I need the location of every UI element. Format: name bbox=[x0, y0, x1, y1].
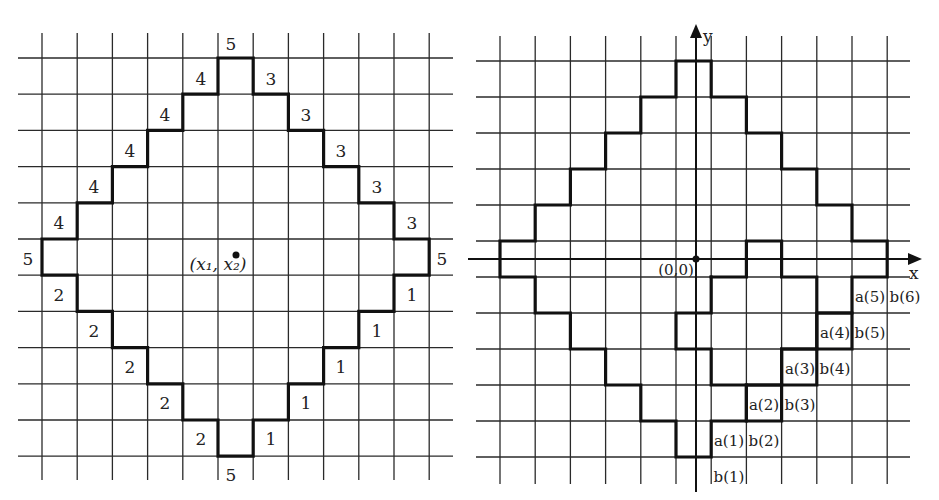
cell-label: b(6) bbox=[890, 288, 921, 306]
x-axis-label: x bbox=[909, 263, 919, 283]
cell-label: a(4) bbox=[820, 324, 850, 342]
edge-count-label: 2 bbox=[160, 393, 171, 413]
edge-count-label: 1 bbox=[336, 357, 347, 377]
edge-count-label: 5 bbox=[226, 34, 237, 54]
edge-count-label: 4 bbox=[89, 177, 100, 197]
edge-count-label: 4 bbox=[196, 69, 207, 89]
edge-count-label: 3 bbox=[266, 69, 277, 89]
cell-label: b(5) bbox=[855, 324, 886, 342]
cell-label: b(3) bbox=[785, 396, 816, 414]
cell-label: a(5) bbox=[855, 288, 885, 306]
edge-count-label: 3 bbox=[301, 105, 312, 125]
left-panel-grid: 544444522222533333511111(x₁, x₂) bbox=[18, 33, 453, 485]
edge-count-label: 3 bbox=[407, 213, 418, 233]
edge-count-label: 2 bbox=[54, 285, 65, 305]
edge-count-label: 5 bbox=[226, 465, 237, 485]
cell-label: b(1) bbox=[714, 468, 745, 486]
edge-count-label: 4 bbox=[54, 213, 65, 233]
cell-label: b(2) bbox=[749, 432, 780, 450]
edge-count-label: 3 bbox=[372, 177, 383, 197]
right-panel-grid: xy(0,0)a(1)b(2)b(1)a(2)b(3)a(3)b(4)a(4)b… bbox=[468, 24, 922, 492]
figure-stage: 544444522222533333511111(x₁, x₂) xy(0,0)… bbox=[0, 0, 939, 500]
lattice-diamond-figure: 544444522222533333511111(x₁, x₂) xy(0,0)… bbox=[0, 0, 939, 500]
edge-count-label: 1 bbox=[266, 429, 277, 449]
edge-count-label: 1 bbox=[407, 285, 418, 305]
edge-count-label: 4 bbox=[160, 105, 171, 125]
edge-count-label: 5 bbox=[437, 249, 448, 269]
y-axis-label: y bbox=[702, 26, 713, 46]
edge-count-label: 2 bbox=[89, 321, 100, 341]
center-point-label: (x₁, x₂) bbox=[190, 254, 247, 274]
edge-count-label: 3 bbox=[336, 141, 347, 161]
edge-count-label: 4 bbox=[125, 141, 136, 161]
origin-label: (0,0) bbox=[658, 261, 694, 279]
edge-count-label: 2 bbox=[125, 357, 136, 377]
y-axis-arrow-icon bbox=[690, 24, 702, 38]
cell-label: a(2) bbox=[749, 396, 779, 414]
cell-label: a(3) bbox=[785, 360, 815, 378]
edge-count-label: 1 bbox=[372, 321, 383, 341]
edge-count-label: 2 bbox=[196, 429, 207, 449]
edge-count-label: 5 bbox=[23, 249, 34, 269]
cell-label: b(4) bbox=[820, 360, 851, 378]
cell-label: a(1) bbox=[714, 432, 744, 450]
edge-count-label: 1 bbox=[301, 393, 312, 413]
